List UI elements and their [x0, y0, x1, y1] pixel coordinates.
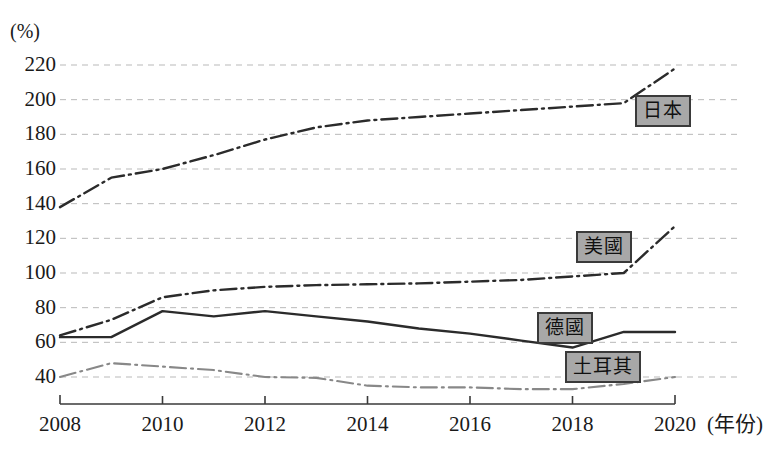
- x-tick-label: 2010: [123, 414, 203, 435]
- y-tick-label: 100: [0, 262, 56, 283]
- x-tick-label: 2012: [225, 414, 305, 435]
- x-axis-group: [60, 395, 675, 404]
- y-tick-label: 160: [0, 158, 56, 179]
- series-label-turkey: 土耳其: [565, 351, 641, 383]
- x-axis-unit-label: (年份): [707, 414, 763, 435]
- series-line-0: [60, 68, 675, 207]
- y-tick-label: 120: [0, 227, 56, 248]
- x-tick-label: 2014: [328, 414, 408, 435]
- series-label-usa: 美國: [576, 231, 632, 263]
- y-tick-label: 80: [0, 297, 56, 318]
- x-tick-label: 2016: [430, 414, 510, 435]
- x-tick-label: 2018: [533, 414, 613, 435]
- y-tick-label: 140: [0, 193, 56, 214]
- y-tick-label: 40: [0, 366, 56, 387]
- y-tick-label: 60: [0, 331, 56, 352]
- y-tick-label: 180: [0, 123, 56, 144]
- y-tick-label: 220: [0, 54, 56, 75]
- chart-container: (%) 406080100120140160180200220 20082010…: [0, 0, 782, 466]
- series-label-japan: 日本: [635, 95, 691, 127]
- y-tick-label: 200: [0, 89, 56, 110]
- x-tick-label: 2008: [20, 414, 100, 435]
- line-chart-plot: [0, 0, 782, 466]
- series-label-germany: 德國: [537, 312, 593, 344]
- x-tick-label: 2020: [635, 414, 715, 435]
